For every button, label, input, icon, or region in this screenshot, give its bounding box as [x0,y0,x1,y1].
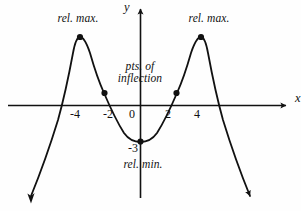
point-rel-min [137,138,143,144]
point-rel-max-right [198,34,204,40]
point-rel-max-left [77,34,83,40]
pts-of-inflection-line-1: pts. of [118,60,162,72]
x-tick-label-0: 0 [129,108,135,121]
rel-min-label: rel. min. [123,158,162,170]
y-axis-label: y [124,1,130,15]
graph-figure: y x rel. max. rel. max. pts. of inflecti… [0,0,301,211]
pts-of-inflection-label: pts. of inflection [118,60,162,85]
point-inflection-left [101,90,107,96]
rel-max-left-label: rel. max. [57,12,98,24]
x-tick-label-minus-4: -4 [70,108,80,121]
x-tick-label-4: 4 [194,108,200,121]
rel-max-right-label: rel. max. [188,12,229,24]
y-tick-label-minus-3: -3 [128,142,138,155]
plot-canvas [0,0,301,211]
pts-of-inflection-line-2: inflection [118,72,162,84]
x-axis-label: x [295,92,301,106]
x-tick-label-minus-2: -2 [103,108,113,121]
point-inflection-right [173,90,179,96]
x-tick-label-2: 2 [165,108,171,121]
